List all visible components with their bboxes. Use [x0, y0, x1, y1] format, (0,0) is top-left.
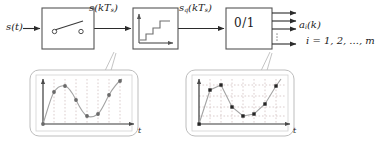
- label-axis-t-left: t: [138, 127, 141, 135]
- label-encoder-binary: 0/1: [234, 17, 255, 29]
- encoder-outputs: [272, 13, 296, 44]
- label-index-range: i = 1, 2, ..., m: [306, 36, 375, 46]
- label-output-signal: ai(k): [299, 20, 321, 31]
- inset-quantized-waveform: [192, 75, 290, 131]
- block-quantizer[interactable]: [133, 8, 178, 49]
- inset-sampled-waveform: [36, 75, 134, 131]
- label-input-signal: s(t): [6, 22, 23, 32]
- label-sampled-signal: s(kTs): [89, 3, 118, 14]
- block-sampler[interactable]: [42, 8, 94, 49]
- inset-right-frame: [192, 75, 288, 131]
- label-axis-t-right: t: [293, 127, 296, 135]
- vertical-ellipsis-icon: [276, 33, 278, 41]
- sampler-box: [42, 8, 94, 49]
- label-quantized-signal: sq(kTs): [179, 3, 212, 14]
